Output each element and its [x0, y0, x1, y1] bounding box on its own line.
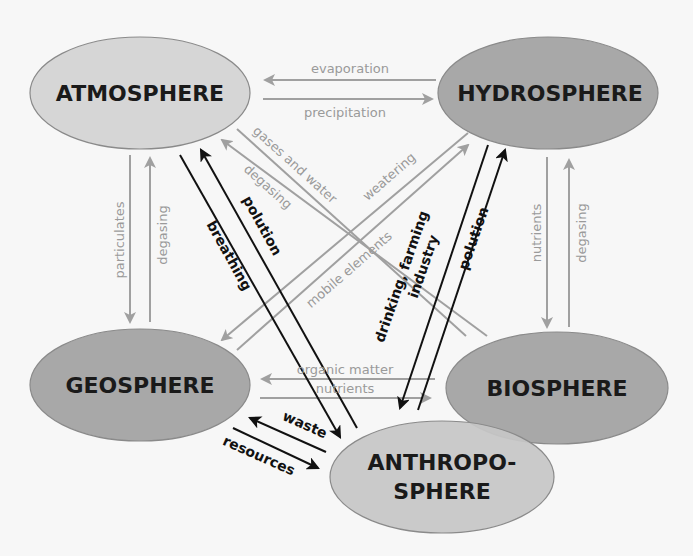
- mobile-elements-label: mobile elements: [303, 228, 395, 311]
- earth-spheres-diagram: ATMOSPHERE HYDROSPHERE GEOSPHERE BIOSPHE…: [0, 0, 693, 556]
- sphere-anthroposphere: ANTHROPO- SPHERE: [330, 421, 554, 533]
- nutrients-hydro-bio-label: nutrients: [529, 203, 544, 262]
- atmosphere-label: ATMOSPHERE: [56, 81, 224, 106]
- sphere-geosphere: GEOSPHERE: [30, 329, 250, 441]
- sphere-hydrosphere: HYDROSPHERE: [438, 37, 658, 149]
- organic-matter-label: organic matter: [297, 362, 394, 377]
- degasing-geo-atmo-label: degasing: [155, 205, 170, 264]
- polution-anthro-hydro-label: polution: [455, 205, 491, 272]
- biosphere-label: BIOSPHERE: [486, 376, 627, 401]
- hydrosphere-label: HYDROSPHERE: [457, 81, 643, 106]
- degasing-bio-hydro-label: degasing: [574, 203, 589, 262]
- particulates-label: particulates: [112, 201, 127, 278]
- geosphere-label: GEOSPHERE: [65, 373, 214, 398]
- anthroposphere-label-line2: SPHERE: [393, 479, 490, 504]
- evaporation-label: evaporation: [311, 61, 389, 76]
- black-flow-arrows: [180, 145, 505, 468]
- precipitation-label: precipitation: [304, 105, 386, 120]
- sphere-atmosphere: ATMOSPHERE: [30, 37, 250, 149]
- breathing-label: breathing: [204, 218, 255, 293]
- anthroposphere-label-line1: ANTHROPO-: [368, 450, 517, 475]
- nutrients-geo-bio-label: nutrients: [316, 381, 375, 396]
- waste-label: waste: [280, 408, 329, 442]
